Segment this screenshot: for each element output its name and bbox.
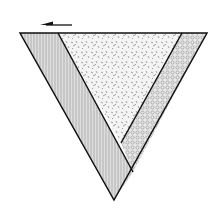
triangle-diagram <box>0 0 210 209</box>
arrow-left-icon <box>40 22 72 26</box>
